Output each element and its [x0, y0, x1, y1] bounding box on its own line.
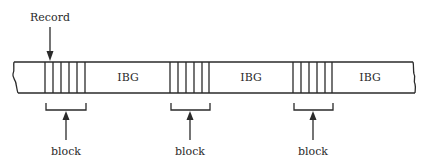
block-3-label: block: [298, 145, 328, 158]
block-2-label: block: [175, 145, 205, 158]
block-1-arrowhead-icon: [63, 111, 70, 120]
block-2-records: [170, 62, 209, 93]
tape-diagram: Record IBG IBG IBG block block block: [0, 0, 428, 166]
gap-3-label: IBG: [359, 71, 380, 84]
block-2-arrowhead-icon: [187, 111, 194, 120]
record-arrowhead-icon: [47, 51, 54, 61]
block-3-records: [293, 62, 332, 93]
block-1-bracket: [46, 103, 86, 110]
record-label: Record: [30, 11, 70, 24]
block-1-label: block: [51, 145, 81, 158]
gap-2-label: IBG: [240, 71, 261, 84]
block-2-bracket: [171, 103, 210, 110]
block-3-arrowhead-icon: [310, 111, 317, 120]
block-3-bracket: [294, 103, 333, 110]
tape-left-torn-edge: [13, 62, 18, 93]
block-1-records: [45, 62, 85, 93]
tape-right-torn-edge: [413, 62, 415, 93]
gap-1-label: IBG: [117, 71, 138, 84]
